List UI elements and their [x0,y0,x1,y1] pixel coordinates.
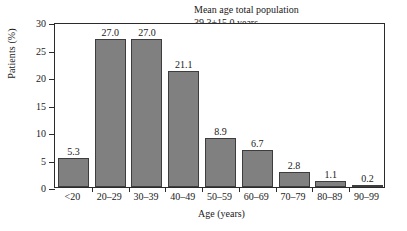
bar: 27.0 [131,39,162,188]
y-tick-label: 0 [41,182,46,195]
y-tick: 5 [49,162,55,163]
bar: 2.8 [279,172,310,187]
bar: 6.7 [242,150,273,187]
bar: 1.1 [315,181,346,187]
y-axis-title: Patients (%) [6,9,17,99]
bar: 21.1 [168,71,199,187]
bar-value-label: 27.0 [138,27,156,38]
x-tick-label: <20 [65,191,81,202]
x-tick-label: 50–59 [207,191,232,202]
x-tick [202,187,203,192]
bar-value-label: 1.1 [325,169,338,180]
y-tick-label: 20 [36,72,46,85]
x-tick-label: 60–69 [244,191,269,202]
y-tick: 20 [49,79,55,80]
x-tick [165,187,166,192]
bar-value-label: 27.0 [101,27,119,38]
x-tick-label: 80–89 [317,191,342,202]
x-tick [312,187,313,192]
y-tick: 10 [49,134,55,135]
bar: 27.0 [95,39,126,188]
x-tick [276,187,277,192]
bar-value-label: 6.7 [251,138,264,149]
plot-area: 051015202530 5.327.027.021.18.96.72.81.1… [54,23,385,188]
x-tick-label: 40–49 [170,191,195,202]
bar: 0.2 [352,185,383,187]
annotation-line-1: Mean age total population [194,4,299,17]
bar-value-label: 2.8 [288,160,301,171]
bar-value-label: 5.3 [67,146,80,157]
bar-value-label: 21.1 [175,59,193,70]
y-tick: 0 [49,189,55,190]
y-tick: 30 [49,24,55,25]
x-tick [349,187,350,192]
x-tick [92,187,93,192]
x-tick-label: 30–39 [133,191,158,202]
y-tick-label: 30 [36,17,46,30]
bar: 8.9 [205,138,236,187]
bar-chart-figure: Patients (%) Age (years) Mean age total … [0,0,407,231]
x-tick-label: 90–99 [354,191,379,202]
bar-value-label: 0.2 [361,173,374,184]
y-tick-label: 5 [41,155,46,168]
y-tick: 15 [49,107,55,108]
bar: 5.3 [58,158,89,187]
x-tick-label: 20–29 [97,191,122,202]
x-tick [239,187,240,192]
x-axis-title: Age (years) [0,208,407,219]
x-tick [129,187,130,192]
y-tick: 25 [49,52,55,53]
y-tick-label: 10 [36,127,46,140]
y-tick-label: 25 [36,45,46,58]
y-tick-label: 15 [36,100,46,113]
bar-value-label: 8.9 [214,126,227,137]
x-tick-label: 70–79 [281,191,306,202]
